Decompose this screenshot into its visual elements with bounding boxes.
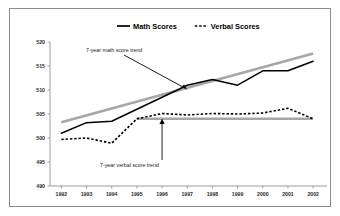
chart-annotations: 7-year math score trend7-year verbal sco… bbox=[86, 47, 187, 168]
x-axis-tick-labels: 1992199319941995199619971998199920002001… bbox=[56, 191, 319, 197]
y-tick-label: 500 bbox=[36, 135, 45, 141]
y-tick-label: 505 bbox=[36, 111, 45, 117]
y-axis-tick-labels: 490495500505510515520 bbox=[36, 39, 45, 189]
y-tick-label: 495 bbox=[36, 159, 45, 165]
chart-figure: Math ScoresVerbal Scores 490495500505510… bbox=[0, 0, 340, 216]
series-line-math-scores bbox=[61, 61, 313, 133]
legend-label-math-scores: Math Scores bbox=[133, 22, 177, 31]
x-tick-label: 1995 bbox=[131, 191, 143, 197]
x-tick-label: 2002 bbox=[307, 191, 319, 197]
x-tick-label: 2001 bbox=[282, 191, 294, 197]
x-tick-label: 2000 bbox=[257, 191, 269, 197]
y-tick-label: 510 bbox=[36, 87, 45, 93]
y-tick-label: 515 bbox=[36, 63, 45, 69]
chart-legend: Math ScoresVerbal Scores bbox=[117, 22, 260, 31]
x-tick-label: 1994 bbox=[106, 191, 118, 197]
series-line-verbal-scores bbox=[61, 108, 313, 143]
x-tick-label: 1999 bbox=[232, 191, 244, 197]
chart-plot-area: Math ScoresVerbal Scores 490495500505510… bbox=[0, 0, 340, 216]
x-tick-label: 1996 bbox=[156, 191, 168, 197]
data-series bbox=[61, 61, 313, 143]
annotation-verbal-trend-label: 7-year verbal score trend bbox=[100, 162, 159, 168]
x-tick-label: 1992 bbox=[56, 191, 68, 197]
y-tick-label: 490 bbox=[36, 183, 45, 189]
y-tick-label: 520 bbox=[36, 39, 45, 45]
trend-line-7-year-math-score-trend bbox=[61, 54, 313, 123]
annotation-math-trend-label: 7-year math score trend bbox=[86, 47, 142, 53]
trend-lines bbox=[61, 54, 313, 123]
x-tick-label: 1997 bbox=[181, 191, 193, 197]
x-tick-label: 1998 bbox=[207, 191, 219, 197]
annotation-math-leader bbox=[124, 55, 185, 88]
legend-label-verbal-scores: Verbal Scores bbox=[211, 22, 260, 31]
x-tick-label: 1993 bbox=[81, 191, 93, 197]
